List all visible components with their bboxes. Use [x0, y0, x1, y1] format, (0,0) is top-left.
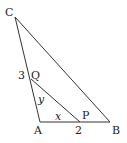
label-A: A: [33, 124, 43, 137]
variable-y: y: [37, 93, 45, 106]
label-C: C: [5, 6, 13, 19]
label-P: P: [82, 109, 90, 122]
label-B: B: [112, 124, 120, 137]
variable-x: x: [55, 110, 62, 123]
length-CQ: 3: [18, 69, 25, 82]
length-PB: 2: [75, 124, 82, 137]
triangle-diagram: C Q A P B 3 2 x y: [0, 0, 127, 143]
label-Q: Q: [31, 69, 40, 82]
